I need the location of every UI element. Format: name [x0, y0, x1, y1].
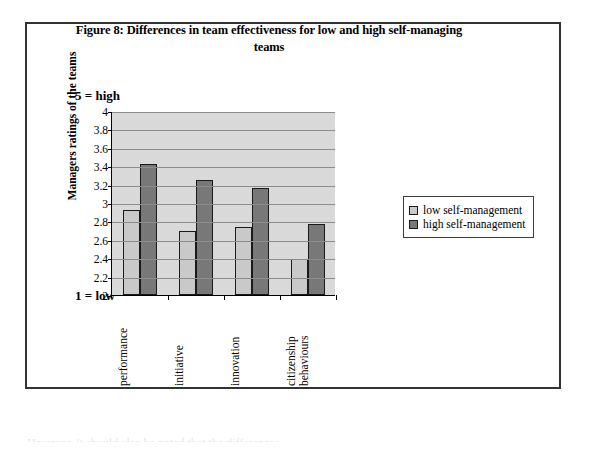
- x-axis-category-label-line: citizenship: [285, 336, 297, 386]
- legend-swatch-low: [409, 206, 418, 215]
- bar-innovation-low: [235, 227, 252, 295]
- gridline: [112, 130, 335, 131]
- legend-item: high self-management: [409, 218, 526, 230]
- gridline: [112, 186, 335, 187]
- y-axis-tickmark: [108, 241, 112, 242]
- x-axis-category-label-line: performance: [117, 328, 129, 386]
- legend-label: low self-management: [423, 204, 522, 216]
- y-axis-tickmark: [108, 130, 112, 131]
- y-axis-tick-label: 3.2: [94, 180, 108, 191]
- gridline: [112, 112, 335, 113]
- y-axis-tickmark: [108, 149, 112, 150]
- x-axis-category-label-line: behaviours: [298, 336, 310, 386]
- y-axis-tick-label: 2.8: [94, 217, 108, 228]
- x-axis-category-label-line: initiative: [173, 345, 185, 386]
- gridline: [112, 278, 335, 279]
- y-axis-tickmark: [108, 278, 112, 279]
- y-axis-tickmark: [108, 167, 112, 168]
- y-axis-tickmark: [108, 204, 112, 205]
- y-axis-title: Managers ratings of the teams: [66, 36, 78, 216]
- page-cutoff-textline: However, it should also be noted that th…: [27, 436, 557, 442]
- gridline: [112, 149, 335, 150]
- bar-performance-high: [140, 164, 157, 295]
- x-axis-category-labels: performanceinitiativeinnovationcitizensh…: [111, 300, 371, 400]
- y-axis-tickmark: [108, 259, 112, 260]
- y-axis-tickmark: [108, 296, 112, 297]
- gridline: [112, 204, 335, 205]
- y-axis-tick-labels: 43.83.63.43.232.82.62.42.22: [83, 112, 108, 296]
- scale-high-label: 5 = high: [75, 88, 120, 104]
- plot-area: [111, 112, 335, 296]
- y-axis-tickmark: [108, 186, 112, 187]
- gridline: [112, 167, 335, 168]
- gridline: [112, 259, 335, 260]
- y-axis-tick-label: 3.8: [94, 125, 108, 136]
- y-axis-tick-label: 2.2: [94, 272, 108, 283]
- chart-legend: low self-managementhigh self-management: [403, 196, 534, 238]
- legend-item: low self-management: [409, 204, 526, 216]
- figure-title: Figure 8: Differences in team effectiven…: [64, 22, 474, 56]
- y-axis-tick-label: 2.4: [94, 254, 108, 265]
- legend-label: high self-management: [423, 218, 526, 230]
- y-axis-tick-label: 3.4: [94, 162, 108, 173]
- y-axis-tickmark: [108, 222, 112, 223]
- plot-wrap: 43.83.63.43.232.82.62.42.22: [83, 112, 353, 308]
- y-axis-tick-label: 2.6: [94, 235, 108, 246]
- gridline: [112, 241, 335, 242]
- x-axis-category-label-line: innovation: [229, 337, 241, 386]
- gridline: [112, 222, 335, 223]
- y-axis-tickmark: [108, 112, 112, 113]
- y-axis-tick-label: 3.6: [94, 143, 108, 154]
- legend-swatch-high: [409, 220, 418, 229]
